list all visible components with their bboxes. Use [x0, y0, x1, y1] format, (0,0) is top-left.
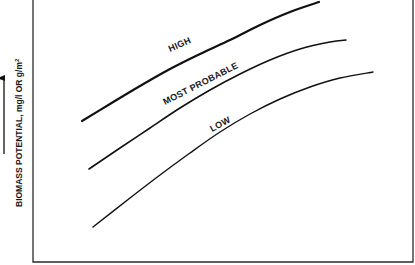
biomass-potential-chart: BIOMASS POTENTIAL, mg/l OR g/m2 HIGH MOS…: [0, 0, 415, 265]
plot-frame: [33, 0, 413, 262]
curve-low: [93, 72, 373, 227]
curve-label-high: HIGH: [167, 35, 193, 54]
curve-label-low: LOW: [208, 115, 232, 134]
y-axis-label: BIOMASS POTENTIAL, mg/l OR g/m2: [14, 58, 24, 207]
curve-most-probable: [89, 40, 346, 169]
curve-high: [82, 2, 319, 121]
